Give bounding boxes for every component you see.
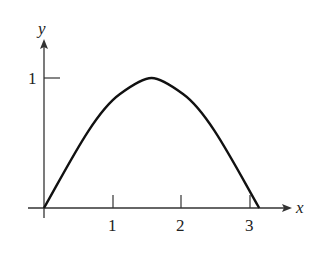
y-tick-label-1: 1 xyxy=(28,69,37,88)
x-tick-label-2: 2 xyxy=(176,216,185,235)
y-axis-label: y xyxy=(36,19,46,38)
sine-curve xyxy=(44,78,259,208)
sine-chart: y x 1 2 3 1 xyxy=(0,0,317,255)
x-tick-label-3: 3 xyxy=(245,216,254,235)
x-tick-label-1: 1 xyxy=(108,216,117,235)
x-axis-label: x xyxy=(295,198,304,217)
